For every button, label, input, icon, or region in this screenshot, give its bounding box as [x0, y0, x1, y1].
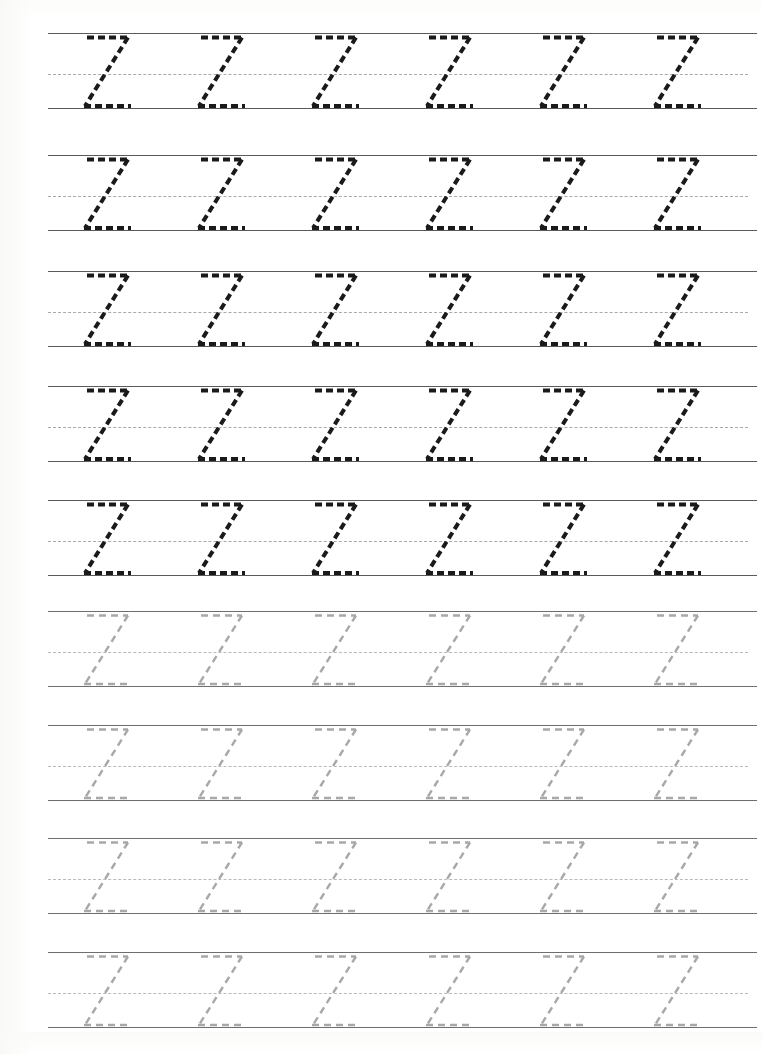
z-diagonal [427, 730, 470, 799]
z-diagonal [427, 160, 470, 229]
z-diagonal [313, 160, 356, 229]
letter-z-trace-guide [198, 838, 260, 913]
letter-z-trace-guide [540, 838, 602, 913]
letter-z-trace-guide [198, 271, 260, 346]
z-diagonal [427, 391, 470, 460]
z-diagonal [199, 276, 242, 345]
letter-z-trace-guide [198, 500, 260, 575]
guideline-mid-dashed [48, 74, 748, 75]
letter-z-trace-guide [426, 33, 488, 108]
guideline-bottom-solid [48, 346, 757, 347]
letter-z-trace-guide [84, 838, 146, 913]
guideline-bottom-solid [48, 1027, 757, 1028]
z-diagonal [427, 505, 470, 574]
z-diagonal [541, 616, 584, 685]
z-diagonal [85, 505, 128, 574]
guideline-bottom-solid [48, 575, 757, 576]
letter-z-trace-guide [426, 155, 488, 230]
guideline-mid-dashed [48, 541, 748, 542]
letter-z-trace-guide [654, 386, 716, 461]
practice-row [0, 952, 762, 1027]
z-diagonal [85, 160, 128, 229]
z-diagonal [199, 957, 242, 1026]
guideline-mid-dashed [48, 993, 748, 994]
z-diagonal [427, 843, 470, 912]
practice-row [0, 33, 762, 108]
letter-z-trace-guide [312, 952, 374, 1027]
letter-z-trace-guide [654, 838, 716, 913]
letter-z-trace-guide [84, 271, 146, 346]
practice-row [0, 500, 762, 575]
guideline-bottom-solid [48, 800, 757, 801]
letter-z-trace-guide [84, 725, 146, 800]
z-diagonal [427, 616, 470, 685]
letter-z-trace-guide [540, 155, 602, 230]
letter-z-trace-guide [540, 271, 602, 346]
letter-z-trace-guide [426, 952, 488, 1027]
z-diagonal [313, 276, 356, 345]
z-diagonal [199, 843, 242, 912]
worksheet-page [0, 0, 762, 1054]
z-diagonal [541, 843, 584, 912]
scan-bottom-shadow [0, 1032, 762, 1054]
letter-z-trace-guide [198, 725, 260, 800]
letter-z-trace-guide [84, 952, 146, 1027]
letter-z-trace-guide [312, 611, 374, 686]
z-diagonal [541, 276, 584, 345]
z-diagonal [85, 276, 128, 345]
letter-z-trace-guide [540, 33, 602, 108]
z-diagonal [199, 505, 242, 574]
z-diagonal [655, 160, 698, 229]
letter-z-trace-guide [312, 155, 374, 230]
z-diagonal [85, 616, 128, 685]
z-diagonal [313, 843, 356, 912]
practice-row [0, 386, 762, 461]
z-diagonal [85, 38, 128, 107]
letter-z-trace-guide [84, 33, 146, 108]
z-diagonal [655, 505, 698, 574]
letter-z-trace-guide [312, 271, 374, 346]
letter-z-trace-guide [198, 33, 260, 108]
letter-z-trace-guide [654, 500, 716, 575]
z-diagonal [541, 160, 584, 229]
letter-z-trace-guide [426, 271, 488, 346]
guideline-top-solid [48, 611, 757, 612]
guideline-bottom-solid [48, 686, 757, 687]
guideline-top-solid [48, 725, 757, 726]
guideline-mid-dashed [48, 652, 748, 653]
letter-z-trace-guide [312, 33, 374, 108]
letter-z-trace-guide [84, 155, 146, 230]
guideline-mid-dashed [48, 766, 748, 767]
letter-z-trace-guide [426, 611, 488, 686]
letter-z-trace-guide [312, 838, 374, 913]
letter-z-trace-guide [312, 386, 374, 461]
z-diagonal [655, 276, 698, 345]
guideline-bottom-solid [48, 230, 757, 231]
letter-z-trace-guide [654, 155, 716, 230]
guideline-bottom-solid [48, 913, 757, 914]
guideline-top-solid [48, 386, 757, 387]
z-diagonal [655, 957, 698, 1026]
letter-z-trace-guide [654, 611, 716, 686]
z-diagonal [199, 730, 242, 799]
letter-z-trace-guide [540, 386, 602, 461]
z-diagonal [541, 38, 584, 107]
z-diagonal [427, 38, 470, 107]
z-diagonal [199, 391, 242, 460]
z-diagonal [427, 276, 470, 345]
guideline-top-solid [48, 838, 757, 839]
letter-z-trace-guide [654, 271, 716, 346]
guideline-top-solid [48, 500, 757, 501]
guideline-bottom-solid [48, 461, 757, 462]
letter-z-trace-guide [198, 386, 260, 461]
z-diagonal [541, 391, 584, 460]
letter-z-trace-guide [84, 500, 146, 575]
guideline-top-solid [48, 155, 757, 156]
z-diagonal [313, 38, 356, 107]
letter-z-trace-guide [312, 500, 374, 575]
letter-z-trace-guide [312, 725, 374, 800]
letter-z-trace-guide [540, 952, 602, 1027]
z-diagonal [541, 505, 584, 574]
z-diagonal [655, 391, 698, 460]
guideline-mid-dashed [48, 196, 748, 197]
